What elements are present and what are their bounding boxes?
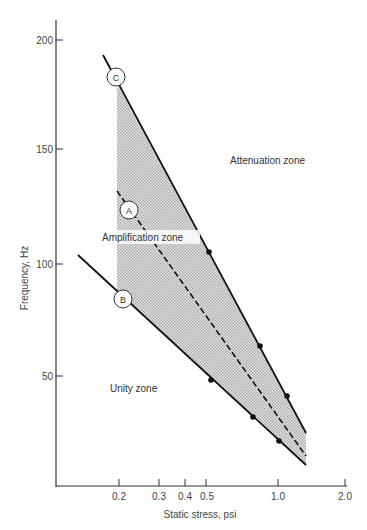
curve-c-label: C	[107, 68, 125, 86]
x-axis-title: Static stress, psi	[164, 509, 237, 520]
attenuation-zone-label: Attenuation zone	[230, 155, 305, 166]
curve-b-label: B	[114, 290, 132, 308]
svg-text:C: C	[113, 73, 120, 83]
y-ticks	[56, 40, 63, 376]
y-axis-title: Frequency, Hz	[19, 246, 30, 310]
x-tick-label: 0.4	[178, 491, 192, 502]
unity-zone-label: Unity zone	[110, 383, 158, 394]
x-ticks	[119, 479, 345, 486]
svg-text:A: A	[126, 206, 132, 216]
x-tick-label: 2.0	[338, 491, 352, 502]
chart: 200 150 100 50 0.2 0.3 0.4 0.5 1.0 2.0 S…	[0, 0, 367, 530]
x-tick-label: 0.3	[152, 491, 166, 502]
curve-a-label: A	[120, 201, 138, 219]
y-tick-label: 200	[36, 35, 53, 46]
y-tick-label: 50	[42, 371, 54, 382]
y-tick-label: 100	[36, 259, 53, 270]
svg-text:B: B	[120, 295, 126, 305]
x-tick-label: 0.2	[112, 491, 126, 502]
amplification-zone-label: Amplification zone	[102, 232, 184, 243]
y-tick-label: 150	[36, 144, 53, 155]
x-tick-label: 0.5	[200, 491, 214, 502]
amplification-region	[117, 88, 306, 465]
x-tick-label: 1.0	[271, 491, 285, 502]
